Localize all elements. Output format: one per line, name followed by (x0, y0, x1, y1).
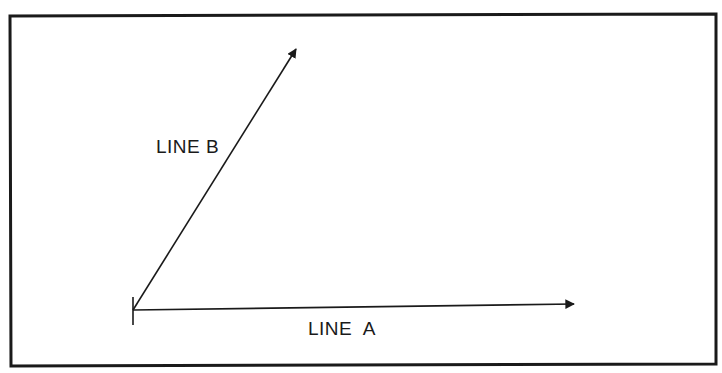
line-a-label: LINE A (308, 319, 376, 338)
line-b-arrow (133, 49, 296, 310)
line-a-arrow (133, 304, 574, 310)
diagram-frame (10, 14, 716, 366)
line-b-label: LINE B (156, 137, 219, 156)
